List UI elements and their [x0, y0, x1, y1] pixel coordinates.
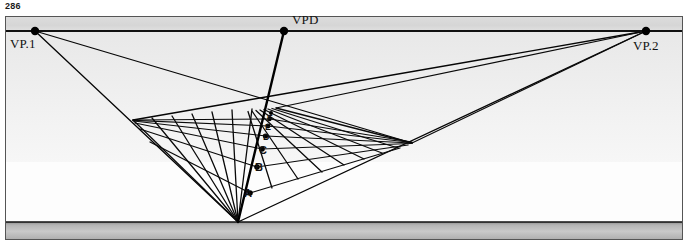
point-dot-e: [266, 124, 271, 129]
sky-band: [6, 17, 682, 31]
ground-lower-strip: [6, 162, 682, 222]
point-dot-b: [254, 164, 260, 170]
point-dot-d: [263, 133, 268, 138]
point-dot-c: [259, 146, 265, 152]
bottom-gray-band: [6, 222, 682, 239]
point-dot-g: [269, 111, 273, 115]
vp1-dot: [31, 27, 39, 35]
page-number: 286: [5, 1, 21, 11]
vpd-dot: [280, 27, 288, 35]
figure-page: 286: [0, 0, 688, 245]
perspective-diagram: VP.1 VPD VP.2 A B C D E F: [0, 12, 688, 245]
vp2-dot: [642, 27, 650, 35]
point-dot-f: [267, 117, 271, 121]
point-dot-a: [247, 190, 253, 196]
